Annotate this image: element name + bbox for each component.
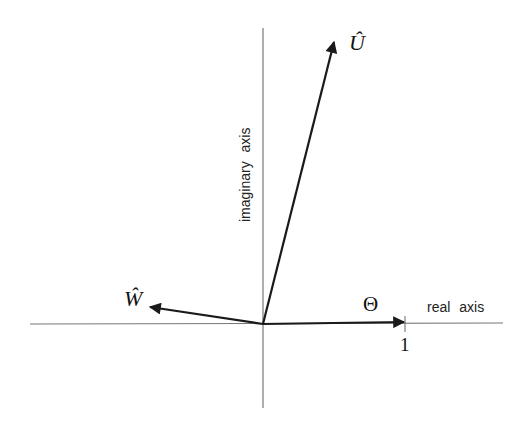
complex-plane-diagram: Û Ŵ Θ 1 real axis imaginary axis bbox=[0, 0, 530, 433]
vector-u-hat bbox=[263, 42, 334, 324]
unit-tick-label: 1 bbox=[400, 334, 410, 355]
vector-w-hat-label: Ŵ bbox=[124, 286, 144, 311]
vector-theta-label: Θ bbox=[363, 292, 378, 316]
real-axis-label: real axis bbox=[427, 299, 484, 315]
vector-u-hat-label: Û bbox=[349, 30, 367, 55]
imaginary-axis-label: imaginary axis bbox=[237, 128, 253, 222]
vector-w-hat bbox=[150, 307, 263, 324]
